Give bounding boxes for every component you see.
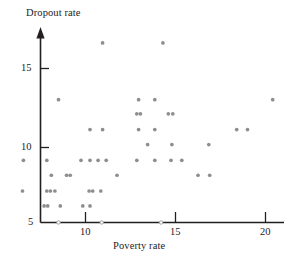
data-point: [169, 158, 173, 162]
y-tick-label-5: 5: [28, 216, 33, 227]
data-point: [101, 128, 105, 132]
data-point: [235, 128, 239, 132]
data-point: [171, 112, 175, 116]
plot-area: [0, 0, 291, 260]
y-axis-arrowhead: [36, 27, 44, 39]
data-point: [58, 204, 62, 208]
x-tick-label-10: 10: [80, 226, 91, 237]
data-point: [180, 158, 184, 162]
data-point: [49, 173, 53, 177]
data-points-group: [21, 41, 275, 224]
data-point: [65, 173, 69, 177]
data-point: [45, 189, 49, 193]
data-point: [22, 158, 26, 162]
data-point: [101, 41, 105, 45]
data-point: [246, 128, 250, 132]
data-point: [146, 143, 150, 147]
x-tick-label-20: 20: [260, 226, 271, 237]
y-axis: [36, 27, 49, 223]
y-axis-title: Dropout rate: [26, 7, 81, 18]
data-point: [99, 189, 103, 193]
data-point: [207, 143, 211, 147]
data-point: [137, 98, 141, 102]
data-point: [115, 173, 119, 177]
data-point: [57, 221, 60, 224]
data-point: [271, 98, 275, 102]
data-point: [21, 189, 25, 193]
y-tick-label-15: 15: [21, 62, 32, 73]
data-point: [135, 112, 139, 116]
data-point: [88, 158, 92, 162]
data-point: [46, 204, 50, 208]
data-point: [96, 158, 100, 162]
data-point: [91, 189, 95, 193]
data-point: [87, 189, 91, 193]
data-point: [79, 158, 83, 162]
data-point: [170, 143, 174, 147]
x-tick-label-15: 15: [170, 226, 181, 237]
data-point: [153, 158, 157, 162]
scatter-chart: Dropout rate Poverty rate 15 10 5 10 15 …: [0, 0, 291, 260]
data-point: [153, 128, 157, 132]
data-point: [42, 204, 46, 208]
data-point: [57, 98, 61, 102]
data-point: [161, 41, 165, 45]
data-point: [81, 204, 85, 208]
data-point: [104, 158, 108, 162]
data-point: [135, 158, 139, 162]
x-axis-title: Poverty rate: [113, 240, 165, 251]
data-point: [137, 128, 141, 132]
data-point: [45, 158, 49, 162]
data-point: [159, 221, 162, 224]
data-point: [88, 128, 92, 132]
data-point: [53, 189, 57, 193]
y-tick-label-10: 10: [21, 141, 32, 152]
data-point: [166, 112, 170, 116]
data-point: [196, 173, 200, 177]
data-point: [139, 112, 143, 116]
data-point: [208, 173, 212, 177]
data-point: [68, 173, 72, 177]
data-point: [49, 189, 53, 193]
data-point: [100, 221, 103, 224]
data-point: [153, 98, 157, 102]
data-point: [88, 204, 92, 208]
